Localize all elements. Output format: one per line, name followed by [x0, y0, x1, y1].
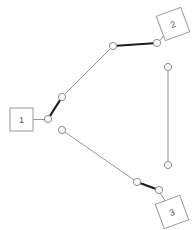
edge-layer — [48, 43, 168, 190]
callout-label-text: 1 — [19, 115, 24, 125]
edge[interactable] — [62, 46, 113, 97]
callout-2[interactable]: 2 — [156, 7, 189, 40]
node-circle[interactable] — [58, 126, 65, 133]
diagram-canvas: 123 — [0, 0, 196, 230]
node-circle[interactable] — [153, 39, 160, 46]
node-circle[interactable] — [58, 93, 65, 100]
node-circle[interactable] — [109, 42, 116, 49]
node-circle[interactable] — [164, 63, 171, 70]
node-circle[interactable] — [133, 178, 140, 185]
edge-highlighted[interactable] — [113, 43, 157, 46]
callout-3[interactable]: 3 — [155, 195, 188, 228]
label-layer: 123 — [10, 7, 190, 228]
node-layer — [44, 39, 171, 193]
node-circle[interactable] — [155, 186, 162, 193]
edge[interactable] — [62, 130, 137, 182]
link-diagram: 123 — [0, 0, 196, 230]
node-circle[interactable] — [164, 161, 171, 168]
node-circle[interactable] — [44, 115, 51, 122]
callout-1[interactable]: 1 — [10, 108, 33, 131]
